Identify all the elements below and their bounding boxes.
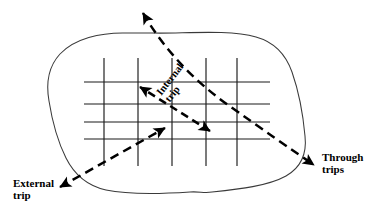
external-trip-arrow: [60, 128, 165, 187]
external-trip-label: External trip: [13, 178, 54, 202]
through-trips-label: Through trips: [322, 152, 363, 176]
diagram-canvas: [0, 0, 376, 215]
study-area-boundary: [48, 32, 306, 193]
trip-types-diagram: External trip Through trips Internal tri…: [0, 0, 376, 215]
